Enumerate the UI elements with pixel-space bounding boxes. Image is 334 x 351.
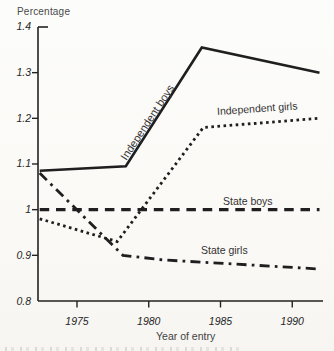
series-label-state-girls: State girls: [201, 244, 248, 256]
y-tick-label: 1.4: [16, 20, 31, 32]
y-tick-label: 0.9: [16, 249, 31, 261]
chart-plot-area: 1.41.31.21.110.90.81975198019851990: [0, 0, 334, 351]
y-tick-label: 1.2: [16, 112, 31, 124]
x-tick-label: 1985: [209, 315, 233, 327]
series-line-independent-girls: [40, 118, 320, 241]
y-tick-label: 1.3: [16, 66, 31, 78]
y-tick-label: 1: [25, 203, 31, 215]
x-tick-label: 1975: [65, 315, 89, 327]
x-tick-label: 1980: [137, 315, 161, 327]
y-tick-label: 0.8: [16, 295, 31, 307]
series-label-state-boys: State boys: [223, 195, 273, 207]
series-line-state-girls: [40, 173, 320, 269]
x-axis-title: Year of entry: [156, 330, 215, 342]
x-tick-label: 1990: [281, 315, 305, 327]
scanned-line-chart-figure: Percentage 1.41.31.21.110.90.81975198019…: [0, 0, 334, 351]
y-tick-label: 1.1: [16, 157, 31, 169]
cutoff-caption-remnant: [5, 347, 240, 351]
